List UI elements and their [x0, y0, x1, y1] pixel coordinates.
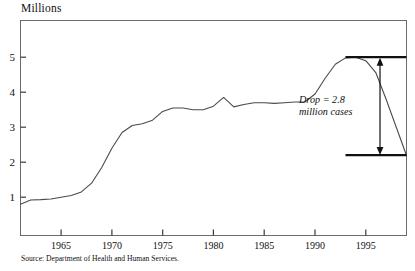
y-tick-label-4: 4: [10, 86, 16, 98]
x-tick-label-1990: 1990: [305, 240, 325, 251]
chart-figure: Millions 5 4 3 2 1: [0, 0, 415, 271]
x-tick-label-1995: 1995: [356, 240, 376, 251]
plot-frame: [21, 21, 407, 236]
x-tick-label-1985: 1985: [254, 240, 274, 251]
x-tick-label-1980: 1980: [203, 240, 223, 251]
line-chart-plot: 5 4 3 2 1 1965 1970 1975 1980 1985 1990 …: [0, 0, 415, 271]
source-note: Source: Department of Health and Human S…: [21, 254, 179, 263]
y-tick-label-1: 1: [10, 191, 16, 203]
drop-annotation-line1: Drop = 2.8: [298, 94, 345, 105]
x-axis-tick-labels: 1965 1970 1975 1980 1985 1990 1995: [51, 240, 376, 251]
y-tick-label-3: 3: [10, 121, 16, 133]
y-tick-label-5: 5: [10, 51, 16, 63]
y-tick-label-2: 2: [10, 156, 16, 168]
drop-annotation-line2: million cases: [299, 106, 353, 117]
x-tick-label-1965: 1965: [51, 240, 71, 251]
x-tick-label-1970: 1970: [102, 240, 122, 251]
y-axis-tick-labels: 5 4 3 2 1: [10, 51, 16, 203]
x-tick-label-1975: 1975: [153, 240, 173, 251]
